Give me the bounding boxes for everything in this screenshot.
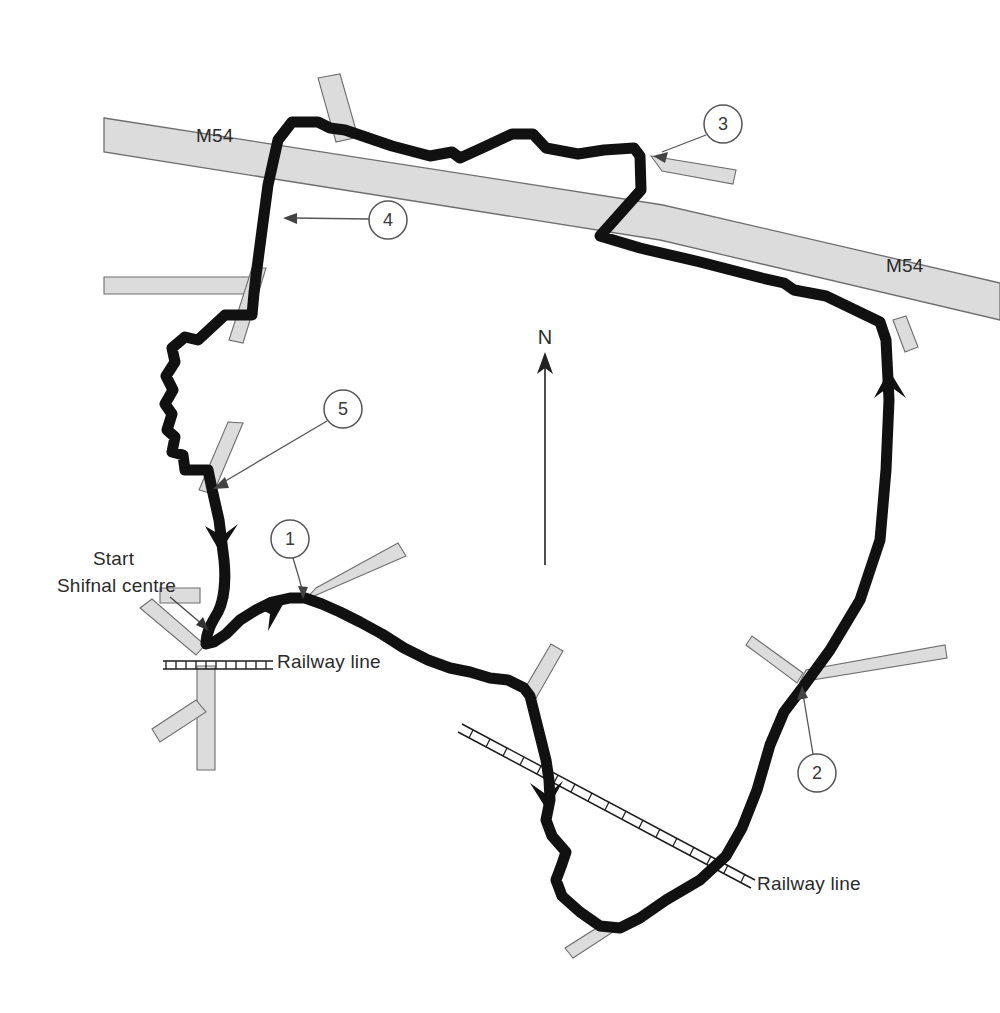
- minor-road-shifnal-sw: [140, 599, 205, 655]
- label-start: Start: [93, 548, 135, 569]
- minor-road-marker2-west: [746, 636, 803, 683]
- railway-line-top: [163, 661, 273, 669]
- minor-road-east-stub: [893, 316, 918, 352]
- marker-4-leader: [292, 218, 369, 219]
- label-railway-line-bottom: Railway line: [757, 873, 861, 894]
- marker-2-label: 2: [812, 763, 822, 783]
- marker-4-arrowhead: [283, 213, 297, 224]
- marker-4-label: 4: [383, 210, 393, 230]
- marker-3-label: 3: [718, 114, 728, 134]
- minor-road-west-upper: [104, 277, 250, 294]
- marker-2[interactable]: 2: [797, 686, 836, 792]
- label-m54-right: M54: [886, 255, 924, 276]
- label-shifnal-centre: Shifnal centre: [57, 575, 176, 596]
- route-direction-arrows: [205, 370, 906, 810]
- marker-3[interactable]: 3: [653, 105, 742, 163]
- minor-road-shifnal-south: [197, 666, 215, 770]
- marker-2-leader: [803, 694, 813, 754]
- north-arrow: N: [537, 326, 553, 565]
- map-svg: 1 2 3 4: [0, 0, 1000, 1013]
- label-m54-left: M54: [196, 125, 234, 146]
- north-arrow-label: N: [538, 326, 552, 348]
- marker-4[interactable]: 4: [283, 201, 407, 239]
- minor-road-marker1: [305, 543, 406, 600]
- marker-3-leader: [662, 135, 706, 152]
- marker-1-label: 1: [285, 529, 295, 549]
- label-railway-line-top: Railway line: [277, 651, 381, 672]
- marker-1[interactable]: 1: [271, 520, 309, 599]
- railway-lines: [163, 661, 755, 888]
- map-canvas: 1 2 3 4: [0, 0, 1000, 1013]
- marker-5-label: 5: [338, 399, 348, 419]
